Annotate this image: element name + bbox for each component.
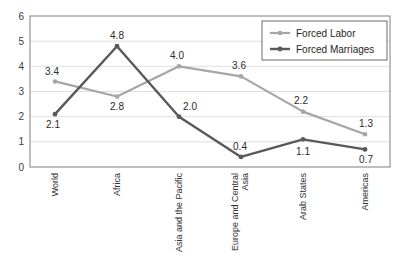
data-point-marriage-arab-states — [301, 137, 306, 142]
y-tick-label-3: 3 — [18, 86, 24, 97]
value-label-marriage-americas: 0.7 — [359, 154, 373, 165]
y-tick-label-6: 6 — [18, 11, 24, 22]
value-label-labor-europe-central-asia: 3.6 — [232, 60, 246, 71]
y-tick-label-4: 4 — [18, 61, 24, 72]
value-label-marriage-asia-pacific: 2.0 — [183, 101, 197, 112]
x-axis-label-africa: Africa — [112, 173, 122, 196]
x-axis-label-world: World — [50, 173, 60, 196]
data-point-marriage-americas — [363, 147, 368, 152]
legend-label-forced-marriages: Forced Marriages — [296, 44, 374, 55]
x-axis-label-europe-central-asia-line2: Asia — [240, 173, 250, 191]
value-label-labor-asia-pacific: 4.0 — [170, 50, 184, 61]
data-point-labor-americas — [363, 132, 368, 137]
data-point-marriage-asia-pacific — [177, 114, 182, 119]
legend-marker-forced-labor — [278, 31, 283, 36]
y-axis-labels: 0 1 2 3 4 5 6 — [18, 11, 24, 173]
data-point-labor-arab-states — [301, 109, 306, 114]
line-chart: 0 1 2 3 4 5 6 — [0, 0, 407, 270]
data-point-labor-asia-pacific — [177, 64, 182, 69]
y-tick-label-5: 5 — [18, 36, 24, 47]
y-tick-label-0: 0 — [18, 162, 24, 173]
y-tick-label-1: 1 — [18, 136, 24, 147]
y-tick-label-2: 2 — [18, 111, 24, 122]
chart-legend[interactable]: Forced Labor Forced Marriages — [262, 21, 387, 60]
data-point-marriage-world — [53, 112, 58, 117]
value-label-marriage-arab-states: 1.1 — [296, 146, 310, 157]
value-label-labor-world: 3.4 — [45, 66, 59, 77]
chart-container: 0 1 2 3 4 5 6 — [0, 0, 407, 270]
x-axis-label-asia-pacific: Asia and the Pacific — [174, 173, 184, 253]
data-point-labor-africa — [115, 94, 120, 99]
value-label-labor-americas: 1.3 — [359, 118, 373, 129]
legend-label-forced-labor: Forced Labor — [296, 28, 356, 39]
data-point-marriage-europe-central-asia — [239, 155, 244, 160]
x-axis-label-europe-central-asia-line1: Europe and Central — [230, 173, 240, 251]
value-label-labor-arab-states: 2.2 — [294, 95, 308, 106]
value-label-marriage-europe-central-asia: 0.4 — [233, 141, 247, 152]
legend-marker-forced-marriages — [278, 47, 283, 52]
data-point-marriage-africa — [115, 44, 120, 49]
value-label-marriage-world: 2.1 — [46, 119, 60, 130]
x-axis-label-arab-states: Arab States — [298, 173, 308, 221]
value-label-labor-africa: 2.8 — [110, 101, 124, 112]
value-label-marriage-africa: 4.8 — [110, 30, 124, 41]
data-point-labor-world — [53, 79, 58, 84]
data-point-labor-europe-central-asia — [239, 74, 244, 79]
x-axis-label-americas: Americas — [360, 173, 370, 211]
x-axis-labels: World Africa Asia and the Pacific Europe… — [50, 173, 370, 253]
